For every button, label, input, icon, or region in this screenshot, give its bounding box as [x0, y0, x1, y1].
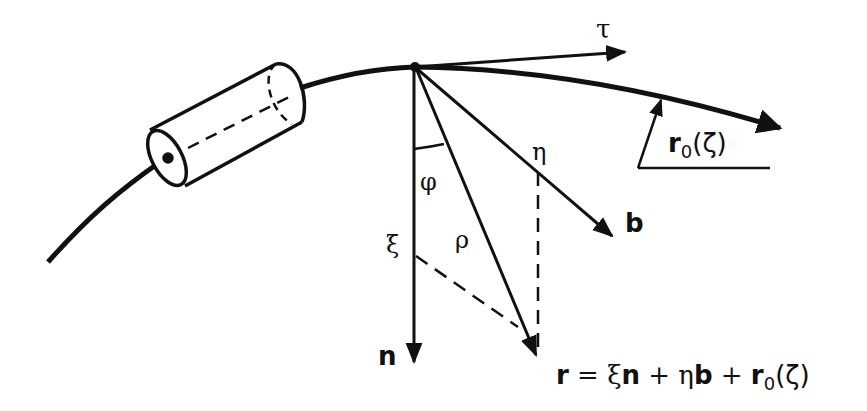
b-label: b [625, 210, 644, 236]
eta-label: η [532, 140, 546, 164]
eq-equals-xi: = ξ [569, 360, 622, 390]
r0-subscript: 0 [681, 141, 692, 162]
eq-r0: r [751, 360, 764, 390]
diagram-canvas: τ φ η b ρ ξ n r0(ζ) r = ξn + ηb + r0(ζ) [0, 0, 867, 411]
phi-label: φ [420, 170, 437, 194]
tau-vector [415, 52, 625, 67]
eq-plus-eta: + η [640, 360, 694, 390]
tau-label: τ [596, 16, 610, 42]
r0-base: r [668, 128, 681, 158]
b-vector [416, 68, 612, 236]
eq-r0-argument: (ζ) [775, 360, 809, 390]
n-label: n [378, 343, 397, 369]
origin-point [410, 62, 420, 72]
eq-b: b [694, 360, 713, 390]
diagram-graphics [0, 0, 867, 411]
xi-projection [416, 256, 518, 327]
position-equation: r = ξn + ηb + r0(ζ) [556, 362, 810, 393]
rho-label: ρ [455, 228, 469, 252]
eq-r0-subscript: 0 [764, 373, 775, 394]
rho-vector [416, 68, 536, 355]
eq-n: n [621, 360, 640, 390]
r0-argument: (ζ) [692, 128, 726, 158]
eq-r: r [556, 360, 569, 390]
cylinder-icon [140, 64, 305, 192]
r0-label: r0(ζ) [668, 130, 727, 161]
xi-label: ξ [386, 233, 399, 257]
eq-plus: + [713, 360, 751, 390]
phi-arc [414, 144, 444, 149]
